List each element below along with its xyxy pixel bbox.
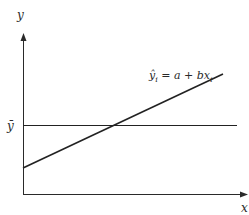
x-axis: x [23,192,248,215]
regression-diagram: y x ȳ ŷi = a + bxi [0,0,249,214]
y-axis-label: y [16,8,24,22]
x-axis-label: x [241,201,248,214]
regression-line: ŷi = a + bxi [23,69,223,168]
mean-line-label: ȳ [6,119,14,133]
x-subscript: i [210,75,213,84]
y-axis: y [16,8,27,194]
y-axis-arrow-icon [21,33,27,41]
regression-equation-label: ŷi = a + bxi [148,69,213,84]
x-axis-arrow-icon [240,192,248,198]
equation-body: = a + bx [158,69,211,82]
